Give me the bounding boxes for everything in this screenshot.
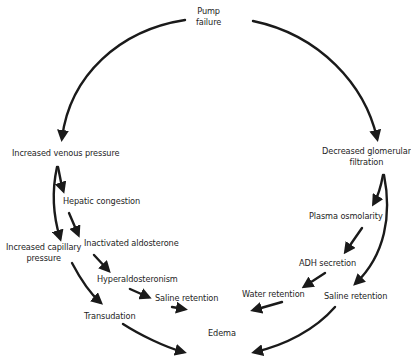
node-water-retention: Water retention bbox=[242, 289, 305, 300]
arrow-venous-to-hepatic bbox=[58, 167, 63, 190]
node-transudation: Transudation bbox=[84, 311, 136, 322]
arrow-saline-left-to-edema bbox=[172, 307, 184, 309]
arrow-inactivated-to-hyper bbox=[94, 255, 108, 270]
node-pump-failure: Pump failure bbox=[196, 6, 221, 28]
node-pump-failure-line2: failure bbox=[196, 17, 221, 28]
node-saline-retention-left: Saline retention bbox=[155, 293, 218, 304]
node-saline-retention-right: Saline retention bbox=[324, 291, 387, 302]
arrow-pump-to-venous bbox=[62, 20, 185, 138]
node-pump-failure-line1: Pump bbox=[196, 6, 221, 17]
node-plasma-osmolarity: Plasma osmolarity bbox=[309, 211, 383, 222]
arrow-adh-to-water bbox=[305, 273, 325, 286]
node-capillary-line2: pressure bbox=[6, 253, 81, 264]
node-increased-venous-pressure: Increased venous pressure bbox=[12, 148, 119, 159]
arrow-water-to-edema bbox=[254, 302, 282, 310]
node-decreased-glomerular-filtration: Decreased glomerular filtration bbox=[322, 146, 411, 168]
node-capillary-line1: Increased capillary bbox=[6, 242, 81, 253]
node-hyperaldosteronism: Hyperaldosteronism bbox=[97, 274, 178, 285]
node-increased-capillary-pressure: Increased capillary pressure bbox=[6, 242, 81, 264]
arrow-saline-right-to-edema bbox=[255, 307, 335, 352]
node-hepatic-congestion: Hepatic congestion bbox=[63, 196, 140, 207]
node-edema: Edema bbox=[208, 328, 236, 339]
arrow-transudation-to-edema bbox=[123, 324, 183, 352]
arrow-plasma-to-adh bbox=[346, 228, 362, 251]
arrow-hyper-to-saline bbox=[130, 289, 148, 297]
arrow-hepatic-to-inactivated bbox=[69, 213, 78, 234]
arrow-pump-to-glomerular bbox=[253, 21, 377, 138]
node-glomerular-line1: Decreased glomerular bbox=[322, 146, 411, 157]
node-inactivated-aldosterone: Inactivated aldosterone bbox=[84, 238, 179, 249]
arrow-capillary-to-transudation bbox=[72, 263, 100, 302]
arrow-glomerular-to-plasma bbox=[374, 175, 383, 203]
node-adh-secretion: ADH secretion bbox=[299, 258, 356, 269]
node-glomerular-line2: filtration bbox=[322, 157, 411, 168]
